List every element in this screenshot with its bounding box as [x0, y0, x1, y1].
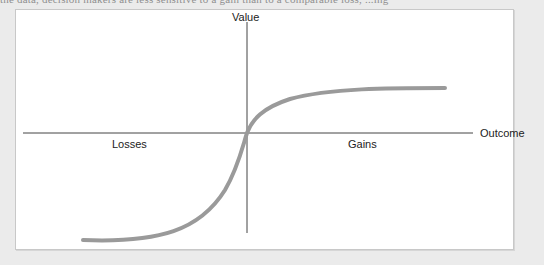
y-axis-label: Value — [232, 11, 259, 23]
losses-label: Losses — [112, 138, 147, 150]
value-function-curve — [83, 88, 445, 240]
gains-label: Gains — [348, 138, 377, 150]
value-function-diagram — [0, 0, 544, 265]
x-axis-label: Outcome — [480, 127, 525, 139]
